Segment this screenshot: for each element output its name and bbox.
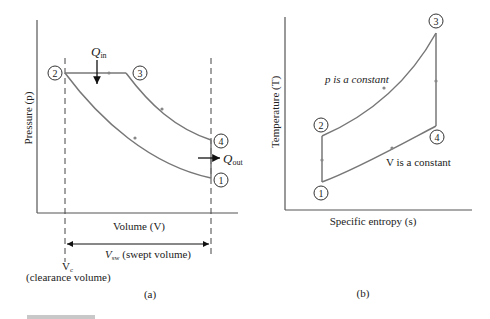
svg-text:3: 3 bbox=[138, 68, 143, 79]
svg-text:4: 4 bbox=[435, 132, 440, 143]
ts-y-axis-label: Temperature (T) bbox=[269, 76, 282, 149]
heat-in-label: Qin bbox=[91, 44, 107, 60]
pv-x-axis-label: Volume (V) bbox=[113, 220, 165, 233]
ts-state-3: 3 bbox=[429, 14, 443, 28]
ts-state-2: 2 bbox=[314, 118, 328, 132]
pv-state-3: 3 bbox=[133, 66, 147, 80]
constant-pressure-label: p is a constant bbox=[324, 73, 390, 85]
svg-text:1: 1 bbox=[319, 188, 324, 199]
pv-y-axis-label: Pressure (p) bbox=[22, 91, 35, 144]
figure-a-caption: (a) bbox=[144, 288, 157, 301]
pv-state-1: 1 bbox=[214, 173, 228, 187]
svg-text:4: 4 bbox=[219, 136, 224, 147]
footer-bar bbox=[27, 315, 95, 319]
svg-text:2: 2 bbox=[53, 68, 58, 79]
svg-text:1: 1 bbox=[219, 175, 224, 186]
ts-diagram: 3 2 4 1 p is a constant V is a constant … bbox=[269, 14, 472, 300]
svg-text:2: 2 bbox=[319, 120, 324, 131]
figure-b-caption: (b) bbox=[357, 287, 370, 300]
ts-state-1: 1 bbox=[314, 186, 328, 200]
process-3-4 bbox=[126, 73, 211, 140]
pv-state-4: 4 bbox=[214, 134, 228, 148]
constant-volume-label: V is a constant bbox=[386, 156, 451, 168]
swept-volume-label: Vsw (swept volume) bbox=[105, 248, 191, 262]
pv-diagram: Qin Qout 2 3 4 1 Pressure (p) Volume (V)… bbox=[22, 20, 243, 301]
pv-state-2: 2 bbox=[48, 66, 62, 80]
svg-text:3: 3 bbox=[434, 16, 439, 27]
ts-x-axis-label: Specific entropy (s) bbox=[330, 215, 417, 228]
clearance-volume-label: (clearance volume) bbox=[26, 271, 111, 284]
heat-out-label: Qout bbox=[223, 151, 243, 167]
diesel-cycle-diagram: Qin Qout 2 3 4 1 Pressure (p) Volume (V)… bbox=[0, 0, 490, 319]
process-4-1-ts bbox=[322, 126, 436, 182]
ts-state-4: 4 bbox=[430, 130, 444, 144]
